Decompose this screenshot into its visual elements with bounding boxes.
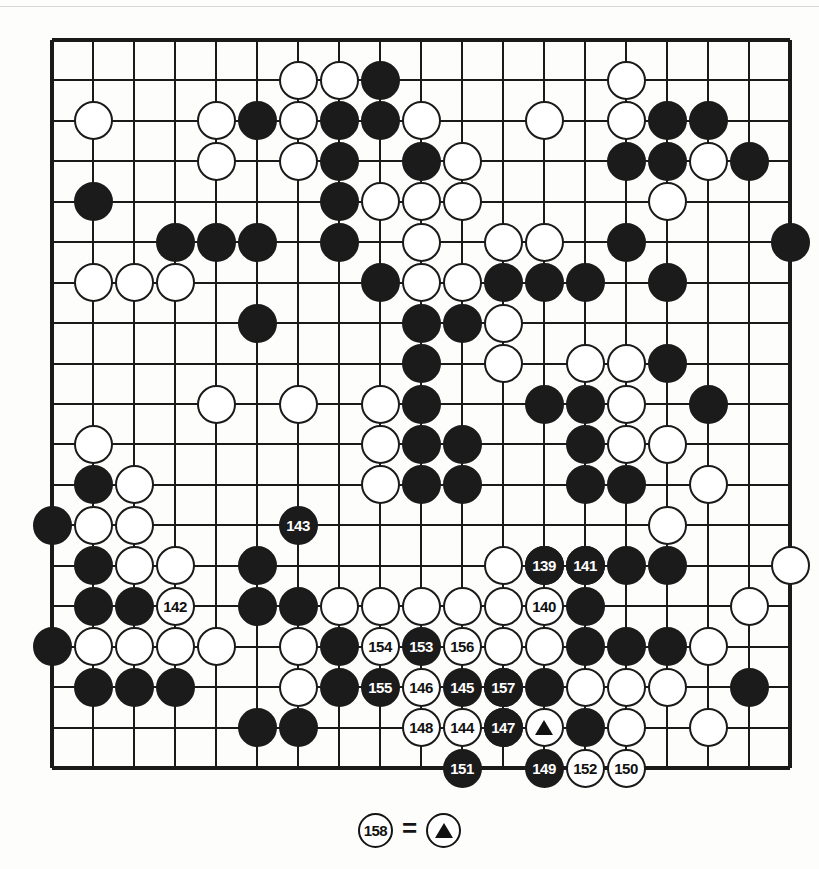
black-stone bbox=[238, 546, 277, 585]
move-number-label: 145 bbox=[450, 679, 474, 694]
white-stone-marked bbox=[525, 708, 564, 747]
white-stone bbox=[197, 385, 236, 424]
black-stone bbox=[320, 668, 359, 707]
black-stone bbox=[566, 465, 605, 504]
white-stone bbox=[402, 263, 441, 302]
white-stone bbox=[771, 546, 810, 585]
white-stone bbox=[484, 223, 523, 262]
caption: 158 = bbox=[0, 800, 819, 860]
move-number-label: 149 bbox=[532, 760, 556, 775]
white-stone bbox=[115, 627, 154, 666]
white-stone bbox=[279, 142, 318, 181]
black-stone bbox=[74, 182, 113, 221]
move-stone-156: 156 bbox=[443, 627, 482, 666]
black-stone bbox=[730, 668, 769, 707]
black-stone bbox=[320, 101, 359, 140]
white-stone bbox=[320, 587, 359, 626]
white-stone bbox=[607, 425, 646, 464]
black-stone bbox=[648, 546, 687, 585]
move-number-label: 150 bbox=[614, 760, 638, 775]
white-stone bbox=[443, 182, 482, 221]
move-number-label: 144 bbox=[450, 720, 474, 735]
move-stone-148: 148 bbox=[402, 708, 441, 747]
white-stone bbox=[484, 627, 523, 666]
black-stone bbox=[525, 263, 564, 302]
white-stone bbox=[484, 344, 523, 383]
white-stone bbox=[525, 101, 564, 140]
black-stone bbox=[566, 385, 605, 424]
black-stone bbox=[74, 668, 113, 707]
triangle-icon bbox=[435, 823, 453, 838]
black-stone bbox=[402, 425, 441, 464]
move-stone-149: 149 bbox=[525, 749, 564, 788]
white-stone bbox=[156, 627, 195, 666]
move-stone-147: 147 bbox=[484, 708, 523, 747]
black-stone bbox=[74, 465, 113, 504]
move-number-label: 157 bbox=[491, 679, 515, 694]
black-stone bbox=[648, 344, 687, 383]
black-stone bbox=[238, 223, 277, 262]
move-number-label: 153 bbox=[409, 639, 433, 654]
move-stone-152: 152 bbox=[566, 749, 605, 788]
white-stone bbox=[279, 101, 318, 140]
white-stone bbox=[566, 668, 605, 707]
black-stone bbox=[361, 101, 400, 140]
black-stone bbox=[320, 223, 359, 262]
move-number-label: 147 bbox=[491, 720, 515, 735]
black-stone bbox=[197, 223, 236, 262]
white-stone bbox=[361, 182, 400, 221]
move-number-label: 140 bbox=[532, 598, 556, 613]
white-stone bbox=[443, 142, 482, 181]
black-stone bbox=[607, 465, 646, 504]
black-stone bbox=[238, 587, 277, 626]
white-stone bbox=[402, 223, 441, 262]
triangle-icon bbox=[535, 720, 553, 735]
grid-line-vertical bbox=[788, 40, 792, 768]
white-stone bbox=[361, 465, 400, 504]
white-stone bbox=[443, 587, 482, 626]
move-number-label: 142 bbox=[163, 598, 187, 613]
white-stone bbox=[74, 506, 113, 545]
black-stone bbox=[566, 263, 605, 302]
move-stone-155: 155 bbox=[361, 668, 400, 707]
white-stone bbox=[648, 668, 687, 707]
move-number-label: 154 bbox=[368, 639, 392, 654]
white-stone bbox=[115, 546, 154, 585]
black-stone bbox=[607, 627, 646, 666]
white-stone bbox=[402, 182, 441, 221]
white-stone bbox=[279, 627, 318, 666]
white-stone bbox=[443, 263, 482, 302]
white-stone bbox=[607, 668, 646, 707]
black-stone bbox=[74, 587, 113, 626]
white-stone bbox=[648, 182, 687, 221]
white-stone bbox=[648, 425, 687, 464]
move-number-label: 146 bbox=[409, 679, 433, 694]
black-stone bbox=[33, 506, 72, 545]
white-stone bbox=[689, 627, 728, 666]
white-stone bbox=[607, 708, 646, 747]
move-number-label: 148 bbox=[409, 720, 433, 735]
black-stone bbox=[402, 465, 441, 504]
black-stone bbox=[607, 223, 646, 262]
white-stone bbox=[689, 708, 728, 747]
black-stone bbox=[156, 668, 195, 707]
black-stone bbox=[320, 142, 359, 181]
black-stone bbox=[607, 546, 646, 585]
black-stone bbox=[525, 668, 564, 707]
white-stone bbox=[279, 61, 318, 100]
black-stone bbox=[771, 223, 810, 262]
black-stone bbox=[74, 546, 113, 585]
black-stone bbox=[320, 182, 359, 221]
move-number-label: 152 bbox=[573, 760, 597, 775]
black-stone bbox=[279, 587, 318, 626]
black-stone bbox=[689, 101, 728, 140]
white-stone bbox=[607, 385, 646, 424]
black-stone bbox=[115, 587, 154, 626]
white-stone bbox=[689, 142, 728, 181]
white-stone bbox=[115, 263, 154, 302]
black-stone bbox=[443, 465, 482, 504]
move-stone-151: 151 bbox=[443, 749, 482, 788]
black-stone bbox=[238, 101, 277, 140]
white-stone bbox=[689, 465, 728, 504]
white-stone bbox=[361, 587, 400, 626]
